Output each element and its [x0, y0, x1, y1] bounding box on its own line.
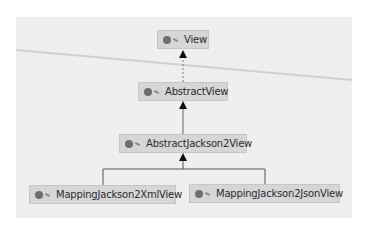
class-node-label: MappingJackson2JsonView	[216, 188, 343, 199]
access-modifier-icon	[173, 38, 178, 42]
interface-icon	[163, 36, 171, 44]
class-node-label: AbstractJackson2View	[146, 138, 252, 149]
access-modifier-icon	[45, 193, 50, 197]
class-node-view[interactable]: View	[157, 30, 209, 49]
abstract-class-icon	[144, 88, 152, 96]
access-modifier-icon	[135, 142, 140, 146]
class-node-abstract-view[interactable]: AbstractView	[138, 82, 228, 101]
class-node-mapping-jackson2-json-view[interactable]: MappingJackson2JsonView	[189, 184, 340, 203]
class-node-mapping-jackson2-xml-view[interactable]: MappingJackson2XmlView	[29, 185, 176, 204]
access-modifier-icon	[154, 90, 159, 94]
class-node-label: View	[184, 34, 207, 45]
abstract-class-icon	[125, 140, 133, 148]
class-node-abstract-jackson2-view[interactable]: AbstractJackson2View	[119, 134, 247, 153]
class-node-label: MappingJackson2XmlView	[56, 189, 182, 200]
class-node-label: AbstractView	[165, 86, 228, 97]
class-icon	[195, 190, 203, 198]
access-modifier-icon	[205, 192, 210, 196]
class-icon	[35, 191, 43, 199]
